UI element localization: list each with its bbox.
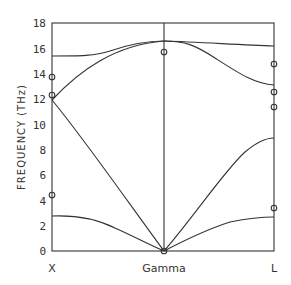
bands-Gamma-L — [164, 41, 274, 251]
tick-0: 0 — [39, 245, 46, 258]
band-to-gamma-l — [164, 41, 274, 85]
experimental-points — [49, 49, 277, 254]
band-ta-gamma-l — [164, 217, 274, 251]
band-to-x-gamma — [52, 41, 164, 100]
tick-4: 4 — [39, 195, 46, 208]
tick-14: 14 — [33, 68, 47, 81]
band-la-gamma-l — [164, 138, 274, 251]
bands-X-Gamma — [52, 41, 164, 251]
tick-8: 8 — [39, 144, 46, 157]
phonon-dispersion-chart: 0 2 4 6 8 10 12 14 16 18 FREQUENCY (THz)… — [0, 0, 291, 285]
band-la-x-gamma — [52, 100, 164, 251]
x-label-L: L — [271, 262, 278, 275]
x-label-Gamma: Gamma — [142, 262, 185, 275]
x-label-X: X — [48, 262, 56, 275]
tick-2: 2 — [39, 220, 46, 233]
tick-18: 18 — [33, 17, 46, 30]
y-tick-labels: 0 2 4 6 8 10 12 14 16 18 — [33, 17, 47, 258]
y-axis-label: FREQUENCY (THz) — [16, 84, 27, 190]
plot-frame — [52, 23, 274, 251]
band-ta-x-gamma — [52, 216, 164, 251]
band-lo-gamma-l — [164, 41, 274, 46]
tick-12: 12 — [33, 93, 46, 106]
tick-10: 10 — [33, 119, 46, 132]
tick-16: 16 — [33, 43, 46, 56]
tick-6: 6 — [39, 169, 46, 182]
